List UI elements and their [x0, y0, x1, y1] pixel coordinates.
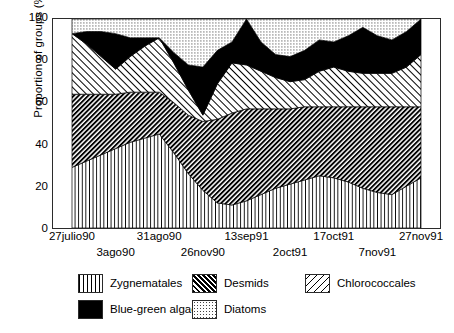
x-tick-7nov91: 7nov91	[359, 247, 397, 259]
fine-dots-swatch-icon	[192, 300, 217, 319]
legend-item-zygnematales[interactable]: Zygnematales	[78, 272, 182, 294]
legend-row-2: Blue-green algae Diatoms	[0, 298, 454, 320]
y-tick-20: 20	[20, 181, 48, 193]
x-axis-tick-labels: 27julio903ago9031ago9026nov9013sep912oct…	[0, 231, 454, 265]
x-tick-2oct91: 2oct91	[273, 247, 308, 259]
stacked-area-svg	[53, 19, 440, 228]
legend-label-zygnematales: Zygnematales	[110, 277, 182, 289]
x-tick-27nov91: 27nov91	[399, 231, 443, 243]
y-tick-40: 40	[20, 139, 48, 151]
x-tick-27julio90: 27julio90	[49, 231, 95, 243]
legend-label-blue-green-algae: Blue-green algae	[110, 303, 198, 315]
legend-row-1: Zygnematales Desmids Chlorococcales	[0, 272, 454, 294]
plot-area	[52, 18, 441, 229]
legend-item-diatoms[interactable]: Diatoms	[192, 298, 266, 320]
y-tick-80: 80	[20, 54, 48, 66]
x-tick-26nov90: 26nov90	[181, 247, 225, 259]
x-tick-13sep91: 13sep91	[224, 231, 268, 243]
vertical-lines-swatch-icon	[78, 274, 103, 293]
legend-item-chlorococcales[interactable]: Chlorococcales	[305, 272, 416, 294]
x-tick-31ago90: 31ago90	[137, 231, 182, 243]
plot-clip	[53, 19, 440, 228]
legend-label-diatoms: Diatoms	[224, 303, 266, 315]
legend-item-blue-green-algae[interactable]: Blue-green algae	[78, 298, 198, 320]
stacked-area-chart: Proportion of groups (%) 100 80 60 40 20…	[0, 0, 454, 333]
y-tick-60: 60	[20, 96, 48, 108]
chart-legend: Zygnematales Desmids Chlorococcales Blue…	[0, 272, 454, 330]
dense-back-diagonal-swatch-icon	[192, 274, 217, 293]
x-tick-3ago90: 3ago90	[96, 247, 134, 259]
legend-label-chlorococcales: Chlorococcales	[337, 277, 416, 289]
forward-diagonal-swatch-icon	[305, 274, 330, 293]
y-tick-100: 100	[20, 12, 48, 24]
x-tick-17oct91: 17oct91	[313, 231, 354, 243]
legend-item-desmids[interactable]: Desmids	[192, 272, 269, 294]
solid-black-swatch-icon	[78, 300, 103, 319]
legend-label-desmids: Desmids	[224, 277, 269, 289]
